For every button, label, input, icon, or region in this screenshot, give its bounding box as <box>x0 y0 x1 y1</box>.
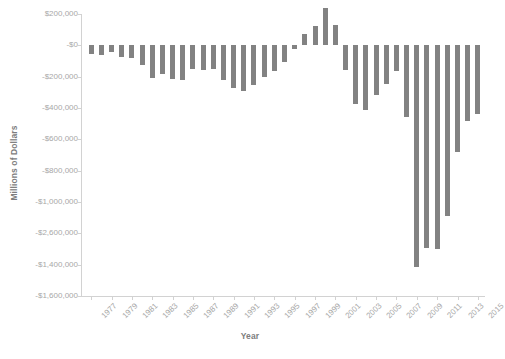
x-axis-tick-label: 1985 <box>182 302 200 320</box>
x-axis-tick-label: 2013 <box>467 302 485 320</box>
y-axis-tick-label: -$2,600,000 <box>6 229 78 237</box>
x-axis-tick-label: 2011 <box>446 302 464 320</box>
x-axis-tick-label: 2009 <box>426 302 444 320</box>
bar <box>241 45 246 90</box>
bar <box>99 45 104 54</box>
x-axis-tick-mark <box>112 296 113 300</box>
x-axis-tick-mark <box>132 296 133 300</box>
x-axis-tick-label: 1981 <box>141 302 159 320</box>
y-axis-tick-label: -$1,400,000 <box>6 261 78 269</box>
bar <box>251 45 256 85</box>
x-axis-tick-mark <box>376 296 377 300</box>
bar <box>323 8 328 45</box>
bar <box>211 45 216 69</box>
x-axis-tick-mark <box>458 296 459 300</box>
bar <box>201 45 206 69</box>
bar <box>221 45 226 80</box>
x-axis-tick-label: 2001 <box>345 302 363 320</box>
bar <box>374 45 379 95</box>
y-axis-tick-label: -$800,000 <box>6 167 78 175</box>
x-axis-tick-label: 2007 <box>406 302 424 320</box>
x-axis-tick-mark <box>234 296 235 300</box>
x-axis-tick-mark <box>91 296 92 300</box>
bar <box>384 45 389 84</box>
x-axis-tick-label: 1993 <box>263 302 281 320</box>
bar <box>333 25 338 45</box>
x-axis-tick-mark <box>417 296 418 300</box>
y-axis-tick-label: -$200,000 <box>6 73 78 81</box>
bar <box>150 45 155 78</box>
x-axis-tick-label: 2015 <box>487 302 505 320</box>
bar <box>89 45 94 53</box>
bar <box>262 45 267 77</box>
x-axis-tick-mark <box>274 296 275 300</box>
bar <box>424 45 429 248</box>
x-axis-tick-label: 1999 <box>324 302 342 320</box>
x-axis-tick-mark <box>335 296 336 300</box>
bar <box>190 45 195 68</box>
x-axis-tick-mark <box>315 296 316 300</box>
y-axis-tick-label: -$400,000 <box>6 104 78 112</box>
bar <box>343 45 348 70</box>
x-axis-tick-mark <box>295 296 296 300</box>
y-axis-tick-labels: $200,000-$0-$200,000-$400,000-$600,000-$… <box>4 0 78 359</box>
x-axis-tick-label: 1989 <box>222 302 240 320</box>
bar <box>353 45 358 104</box>
x-axis-tick-mark <box>193 296 194 300</box>
bar <box>414 45 419 266</box>
bar <box>475 45 480 114</box>
x-axis-tick-mark <box>437 296 438 300</box>
x-axis-tick-mark <box>213 296 214 300</box>
bar <box>272 45 277 71</box>
bar <box>313 26 318 46</box>
x-axis-tick-label: 1983 <box>161 302 179 320</box>
bar <box>119 45 124 57</box>
x-axis-tick-mark <box>173 296 174 300</box>
bar <box>180 45 185 80</box>
bar <box>231 45 236 87</box>
x-axis-tick-mark <box>356 296 357 300</box>
bar <box>160 45 165 74</box>
y-axis-tick-label: $200,000 <box>6 10 78 18</box>
x-axis-tick-label: 2005 <box>385 302 403 320</box>
bar <box>282 45 287 62</box>
bar <box>465 45 470 121</box>
bar <box>129 45 134 57</box>
x-axis-line <box>81 296 485 297</box>
bar <box>445 45 450 215</box>
x-axis-tick-label: 1979 <box>121 302 139 320</box>
bar <box>404 45 409 117</box>
x-axis-tick-label: 1977 <box>100 302 118 320</box>
y-axis-tick-label: -$1,600,000 <box>6 292 78 300</box>
x-axis-tick-label: 1991 <box>243 302 261 320</box>
bar <box>140 45 145 65</box>
y-axis-tick-label: -$0 <box>6 41 78 49</box>
bar <box>455 45 460 151</box>
bar <box>435 45 440 249</box>
x-axis-tick-mark <box>152 296 153 300</box>
bar <box>394 45 399 70</box>
bar <box>363 45 368 110</box>
bar <box>302 34 307 45</box>
x-axis-tick-mark <box>396 296 397 300</box>
x-axis-tick-label: 1997 <box>304 302 322 320</box>
y-axis-tick-label: -$600,000 <box>6 135 78 143</box>
y-axis-tick-label: -$1,000,000 <box>6 198 78 206</box>
x-axis-tick-label: 1995 <box>284 302 302 320</box>
x-axis-tick-mark <box>478 296 479 300</box>
x-axis-tick-mark <box>254 296 255 300</box>
bar <box>292 45 297 48</box>
bar <box>170 45 175 78</box>
bar <box>109 45 114 51</box>
x-axis-tick-label: 2003 <box>365 302 383 320</box>
x-axis-tick-label: 1987 <box>202 302 220 320</box>
footer-note <box>0 354 500 359</box>
plot-area <box>82 14 485 296</box>
